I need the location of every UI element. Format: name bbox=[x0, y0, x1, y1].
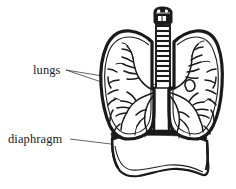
left-lung bbox=[101, 31, 154, 139]
label-diaphragm: diaphragm bbox=[8, 133, 62, 146]
right-lung bbox=[169, 31, 222, 139]
label-lungs: lungs bbox=[33, 64, 61, 77]
anatomy-figure: lungs diaphragm bbox=[0, 0, 236, 189]
larynx bbox=[154, 7, 172, 25]
trachea bbox=[156, 22, 170, 88]
lungs-diaphragm-illustration bbox=[0, 0, 236, 189]
